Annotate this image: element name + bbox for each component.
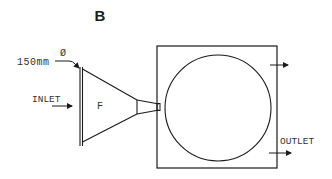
inlet-plate — [80, 67, 83, 146]
funnel-label: F — [97, 101, 103, 112]
diameter-value-label: 150mm — [17, 57, 50, 68]
diameter-symbol: Ø — [60, 48, 66, 59]
outlet-label: OUTLET — [280, 136, 315, 147]
chamber-box — [157, 46, 277, 168]
inlet-label: INLET — [32, 94, 61, 105]
panel-label: B — [95, 7, 106, 24]
diameter-leader-arrow — [55, 61, 79, 68]
diagram-canvas: B Ø 150mm INLET F OUTLET — [0, 0, 332, 179]
chamber-circle — [165, 55, 271, 161]
funnel — [83, 69, 161, 142]
